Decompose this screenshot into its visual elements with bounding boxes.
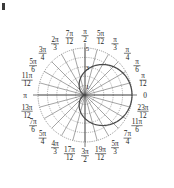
angle-label-num-4pi/3: 4π [51, 140, 59, 148]
angle-label-den-17pi/12: 12 [66, 154, 74, 162]
angle-label-den-5pi/4: 4 [41, 138, 45, 146]
angle-label-num-3pi/4: 3π [39, 46, 47, 54]
angle-label-num-19pi/12: 19π [95, 146, 106, 154]
angle-label-num-pi/2: π [83, 28, 87, 36]
angle-label-num-pi/6: π [135, 58, 139, 66]
angle-label-num-11pi/12: 11π [22, 72, 33, 80]
angle-label-7pi/12: 7π12 [66, 30, 74, 46]
angle-label-den-pi/12: 12 [139, 80, 147, 88]
angle-label-5pi/4: 5π4 [39, 130, 47, 146]
angle-label-den-19pi/12: 12 [97, 154, 105, 162]
angle-label-num-23pi/12: 23π [138, 104, 149, 112]
angle-label-pi/3: π3 [112, 36, 119, 52]
angle-label-num-2pi/3: 2π [51, 36, 59, 44]
angle-label-den-3pi/4: 4 [41, 54, 45, 62]
angle-label-text-pi: π [23, 91, 27, 100]
angle-label-den-23pi/12: 12 [139, 112, 147, 120]
angle-label-den-2pi/3: 3 [53, 44, 57, 52]
angle-label-den-3pi/2: 2 [83, 156, 87, 164]
angle-label-den-11pi/6: 6 [135, 126, 139, 134]
grid-spoke-1 [85, 83, 130, 95]
angle-label-pi/6: π6 [133, 58, 140, 74]
angle-label-den-5pi/12: 12 [97, 38, 105, 46]
angle-label-num-5pi/3: 5π [111, 140, 119, 148]
angle-label-den-pi/6: 6 [135, 66, 139, 74]
angle-label-7pi/4: 7π4 [124, 130, 132, 146]
polar-plot-figure: 135 0π12π6π4π35π12π27π122π33π45π611π12π1… [0, 0, 174, 188]
r-tick-1: 1 [86, 83, 89, 90]
angle-label-19pi/12: 19π12 [95, 146, 106, 162]
angle-label-num-17pi/12: 17π [64, 146, 75, 154]
angle-label-3pi/4: 3π4 [39, 46, 47, 62]
angle-label-0: 0 [143, 91, 147, 100]
angle-label-den-7pi/4: 4 [126, 138, 130, 146]
angle-label-num-3pi/2: 3π [81, 148, 89, 156]
angle-label-11pi/12: 11π12 [21, 72, 32, 88]
angle-label-11pi/6: 11π6 [131, 118, 142, 134]
angle-label-4pi/3: 4π3 [51, 140, 59, 156]
angle-label-pi: π [23, 91, 27, 100]
angle-label-7pi/6: 7π6 [29, 118, 37, 134]
angle-label-pi/12: π12 [139, 72, 147, 88]
angle-label-den-7pi/12: 12 [66, 38, 74, 46]
angle-label-23pi/12: 23π12 [137, 104, 148, 120]
angle-label-num-13pi/12: 13π [22, 104, 33, 112]
angle-label-num-5pi/4: 5π [39, 130, 47, 138]
angle-label-17pi/12: 17π12 [64, 146, 75, 162]
angle-label-den-5pi/3: 3 [113, 148, 117, 156]
angle-label-text-0: 0 [143, 91, 147, 100]
angle-label-num-5pi/6: 5π [29, 58, 37, 66]
angle-label-pi/4: π4 [124, 46, 131, 62]
angle-label-pi/2: π2 [82, 28, 89, 44]
angle-label-3pi/2: 3π2 [81, 148, 89, 164]
angle-label-den-7pi/6: 6 [31, 126, 35, 134]
angle-label-num-7pi/4: 7π [124, 130, 132, 138]
angle-label-den-pi/2: 2 [83, 36, 87, 44]
angle-label-num-7pi/12: 7π [66, 30, 74, 38]
angle-label-5pi/12: 5π12 [97, 30, 105, 46]
angle-label-den-pi/4: 4 [126, 54, 130, 62]
polar-plot-canvas: 135 0π12π6π4π35π12π27π122π33π45π611π12π1… [0, 0, 174, 188]
angle-label-num-5pi/12: 5π [97, 30, 105, 38]
angle-label-num-pi/12: π [141, 72, 145, 80]
angle-label-den-11pi/12: 12 [23, 80, 31, 88]
grid-spoke-19 [85, 95, 97, 140]
angle-label-den-4pi/3: 3 [53, 148, 57, 156]
angle-label-5pi/3: 5π3 [111, 140, 119, 156]
angle-label-num-pi/4: π [126, 46, 130, 54]
angle-label-2pi/3: 2π3 [51, 36, 59, 52]
angle-label-num-7pi/6: 7π [29, 118, 37, 126]
angle-label-den-pi/3: 3 [113, 44, 117, 52]
corner-bullet-mark [2, 3, 5, 10]
angle-label-num-pi/3: π [113, 36, 117, 44]
